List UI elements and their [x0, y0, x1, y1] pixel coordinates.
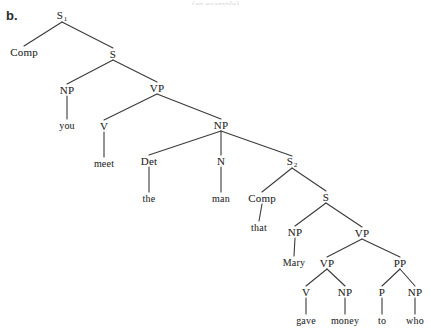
node-label-text: gave: [296, 315, 316, 326]
node-label-text: V: [100, 120, 108, 132]
node-label-text: man: [212, 193, 230, 204]
node-label-text: VP: [320, 257, 334, 269]
tree-branch: [362, 239, 400, 257]
node-label-text: the: [143, 193, 156, 204]
syntax-tree-figure: (an example) b. S1CompSNPyouVPVmeetNPDet…: [0, 0, 431, 334]
tree-node-np: NP: [338, 286, 352, 298]
node-label-text: NP: [408, 286, 422, 298]
tree-terminal-mary: Mary: [283, 257, 305, 268]
tree-node-n: N: [217, 155, 225, 167]
node-label-text: who: [406, 315, 424, 326]
tree-node-vp: VP: [150, 82, 164, 94]
tree-node-np: NP: [408, 286, 422, 298]
tree-node-vp: VP: [355, 227, 369, 239]
node-label-subscript: 2: [293, 161, 297, 169]
tree-branch: [295, 203, 326, 226]
tree-branch: [400, 269, 415, 286]
node-label-text: Comp: [248, 192, 276, 204]
tree-branch: [259, 204, 262, 221]
node-label-text: PP: [394, 257, 407, 269]
tree-edges: [0, 0, 431, 334]
tree-terminal-gave: gave: [296, 315, 316, 326]
tree-terminal-you: you: [59, 120, 75, 131]
tree-terminal-money: money: [331, 315, 359, 326]
tree-terminal-man: man: [212, 193, 230, 204]
tree-branch: [113, 60, 157, 82]
node-label-text: S: [110, 48, 116, 60]
tree-branch: [262, 168, 292, 192]
tree-branch: [24, 22, 62, 46]
tree-branch: [62, 22, 113, 48]
tree-node-comp: Comp: [10, 46, 38, 58]
node-label-text: NP: [288, 226, 302, 238]
tree-branch: [221, 131, 292, 156]
node-label-text: NP: [338, 286, 352, 298]
tree-branch: [326, 203, 362, 227]
tree-terminal-the: the: [143, 193, 156, 204]
tree-node-v: V: [302, 286, 310, 298]
node-label-subscript: 1: [63, 15, 67, 23]
tree-node-np: NP: [60, 84, 74, 96]
tree-node-s: S: [323, 191, 329, 203]
tree-branch: [327, 239, 362, 257]
tree-node-vp: VP: [320, 257, 334, 269]
tree-branch: [327, 269, 345, 286]
tree-node-s2: S2: [287, 155, 297, 169]
tree-node-pp: PP: [394, 257, 407, 269]
node-label-text: V: [302, 286, 310, 298]
node-label-text: meet: [94, 158, 114, 169]
node-label-text: N: [217, 155, 225, 167]
node-label-text: VP: [150, 82, 164, 94]
tree-branch: [382, 269, 400, 286]
tree-branch: [149, 131, 221, 155]
node-label-text: you: [59, 120, 75, 131]
tree-branch: [157, 94, 221, 119]
tree-branch: [67, 60, 113, 84]
tree-branch: [306, 269, 327, 286]
tree-node-comp: Comp: [248, 192, 276, 204]
node-label-text: Comp: [10, 46, 38, 58]
node-label-text: Mary: [283, 257, 305, 268]
node-label-text: NP: [214, 119, 228, 131]
tree-terminal-to: to: [378, 315, 386, 326]
tree-terminal-meet: meet: [94, 158, 114, 169]
tree-branch: [104, 94, 157, 120]
tree-node-s1: S1: [57, 9, 67, 23]
node-label-text: P: [379, 286, 385, 298]
node-label-text: money: [331, 315, 359, 326]
tree-node-p: P: [379, 286, 385, 298]
node-label-text: to: [378, 315, 386, 326]
tree-node-np: NP: [288, 226, 302, 238]
node-label-text: NP: [60, 84, 74, 96]
tree-terminal-who: who: [406, 315, 424, 326]
tree-terminal-that: that: [251, 222, 267, 233]
node-label-text: VP: [355, 227, 369, 239]
tree-branch: [292, 168, 326, 191]
node-label-text: that: [251, 222, 267, 233]
tree-node-det: Det: [141, 155, 157, 167]
node-label-text: S: [323, 191, 329, 203]
node-label-text: Det: [141, 155, 157, 167]
tree-node-s: S: [110, 48, 116, 60]
tree-node-v: V: [100, 120, 108, 132]
tree-branch: [294, 238, 295, 256]
tree-node-np: NP: [214, 119, 228, 131]
